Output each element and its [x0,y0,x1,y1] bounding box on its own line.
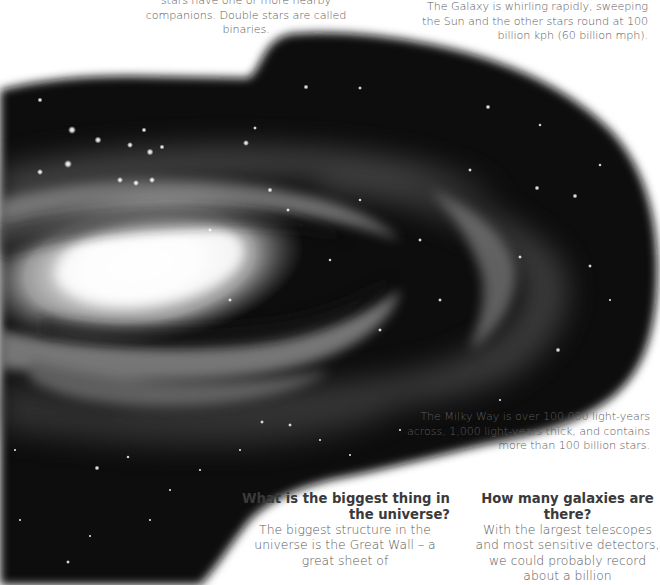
answer-text: The biggest structure in the universe is… [240,522,450,568]
question-heading: How many galaxies are there? [470,491,660,522]
caption-galaxy-rotation: The Galaxy is whirling rapidly, sweeping… [412,0,648,44]
answer-text: With the largest telescopes and most sen… [470,522,660,583]
qa-galaxy-count: How many galaxies are there? With the la… [470,491,660,583]
caption-binaries: stars have one or more nearby companions… [140,0,352,38]
question-heading: What is the biggest thing in the univers… [240,491,450,522]
qa-biggest-thing: What is the biggest thing in the univers… [240,491,450,568]
caption-milky-way-size: The Milky Way is over 100,000 light-year… [380,410,650,454]
